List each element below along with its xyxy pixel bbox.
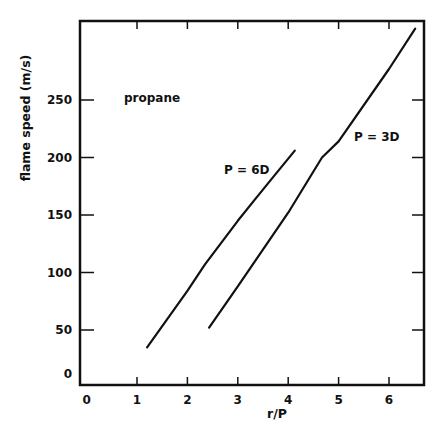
- x-tick-label: 2: [183, 393, 191, 407]
- data-series: [147, 29, 415, 348]
- series-line-p-3d: [209, 29, 415, 328]
- y-tick-label: 50: [55, 323, 72, 337]
- annotation-p3d: P = 3D: [354, 130, 400, 144]
- series-line-p-6d: [147, 151, 295, 348]
- x-tick-label: 5: [334, 393, 342, 407]
- chart-canvas: 0123456 050100150200250 r/P flame speed …: [0, 0, 440, 441]
- x-tick-label: 0: [82, 393, 90, 407]
- x-tick-label: 3: [234, 393, 242, 407]
- y-tick-label: 0: [64, 367, 72, 381]
- annotation-propane: propane: [124, 91, 180, 105]
- y-axis-title: flame speed (m/s): [18, 55, 33, 182]
- y-tick-label: 150: [47, 208, 72, 222]
- y-tick-label: 100: [47, 266, 72, 280]
- x-tick-label: 4: [284, 393, 292, 407]
- y-tick-label: 200: [47, 151, 72, 165]
- x-axis-title: r/P: [267, 406, 287, 421]
- x-tick-label: 6: [385, 393, 393, 407]
- annotation-p6d: P = 6D: [224, 163, 270, 177]
- y-tick-label: 250: [47, 93, 72, 107]
- x-axis-ticks: 0123456: [82, 21, 393, 407]
- x-tick-label: 1: [133, 393, 141, 407]
